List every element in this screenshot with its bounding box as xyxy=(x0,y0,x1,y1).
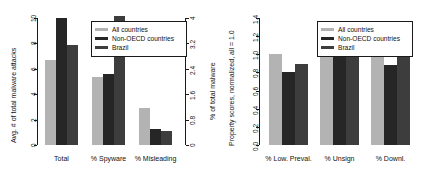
legend-item: Non-OECD countries xyxy=(95,34,182,43)
left-chart-panel: 0246810 00.81.62.43.24 Avg. # of total m… xyxy=(0,0,219,180)
axis-tick-label: 2.4 xyxy=(190,66,197,75)
legend-swatch-icon xyxy=(321,46,334,49)
legend-label: Brazil xyxy=(112,44,129,51)
axis-tick-label: 1.6 xyxy=(190,91,197,100)
axis-tick-label: 0.0 xyxy=(253,142,260,151)
axis-tick-label: 4 xyxy=(31,93,38,97)
axis-tick-label: 0.6 xyxy=(253,87,260,96)
axis-tick-label: 0 xyxy=(190,143,197,147)
bar xyxy=(56,18,67,145)
legend-swatch-icon xyxy=(95,28,108,31)
bar xyxy=(333,55,346,145)
legend-label: Brazil xyxy=(338,44,355,51)
bar xyxy=(282,72,295,145)
left-panel-secondary-y-axis-title: % of total malware xyxy=(209,62,216,120)
axis-tick-label: 0 xyxy=(31,143,38,147)
legend-swatch-icon xyxy=(95,37,108,40)
right-chart-panel: 0.00.20.40.60.81.01.21.4 Property scores… xyxy=(219,0,439,180)
axis-tick-label: 1.4 xyxy=(253,15,260,24)
legend-label: All countries xyxy=(338,26,374,33)
bar xyxy=(371,54,384,145)
bar xyxy=(269,54,282,145)
axis-tick-label: 10 xyxy=(31,15,38,22)
legend-item: Brazil xyxy=(321,43,408,52)
bar xyxy=(295,64,308,145)
left-y-axis-line xyxy=(37,18,38,145)
bar xyxy=(346,56,359,145)
axis-tick-label: 4 xyxy=(190,16,197,20)
axis-tick-label: 0.8 xyxy=(253,69,260,78)
bar xyxy=(320,54,333,145)
legend-item: All countries xyxy=(321,25,408,34)
left-y-axis-title: Avg. # of total malware attacks xyxy=(10,48,17,143)
axis-tick-label: 1.0 xyxy=(253,51,260,60)
bar xyxy=(45,60,56,145)
legend-item: Brazil xyxy=(95,43,182,52)
legend-swatch-icon xyxy=(321,37,334,40)
axis-tick-label: 0.8 xyxy=(190,116,197,125)
axis-tick-label: 0.4 xyxy=(253,106,260,115)
axis-tick-label: 2 xyxy=(31,118,38,122)
x-axis-label: % Downl. xyxy=(359,155,423,162)
legend-item: Non-OECD countries xyxy=(321,34,408,43)
bar xyxy=(67,45,78,145)
two-panel-bar-chart-figure: 0246810 00.81.62.43.24 Avg. # of total m… xyxy=(0,0,439,180)
axis-tick-label: 8 xyxy=(31,42,38,46)
axis-tick-label: 1.2 xyxy=(253,33,260,42)
legend-label: Non-OECD countries xyxy=(112,35,174,42)
legend-item: All countries xyxy=(95,25,182,34)
bar xyxy=(103,74,114,145)
bar xyxy=(161,131,172,145)
bar xyxy=(397,52,410,145)
legend-label: Non-OECD countries xyxy=(338,35,400,42)
axis-tick-label: 3.2 xyxy=(190,40,197,49)
bar xyxy=(384,65,397,145)
left-chart-legend: All countriesNon-OECD countriesBrazil xyxy=(91,21,187,57)
bar xyxy=(150,129,161,145)
right-chart-legend: All countriesNon-OECD countriesBrazil xyxy=(317,21,413,57)
axis-tick-label: 6 xyxy=(31,67,38,71)
axis-tick-label: 0.2 xyxy=(253,124,260,133)
bar xyxy=(92,77,103,145)
x-axis-label: % Misleading xyxy=(124,155,188,162)
legend-label: All countries xyxy=(112,26,148,33)
bar xyxy=(139,108,150,145)
right-y-axis-title: Property scores, normalized, all = 1.0 xyxy=(228,30,235,146)
legend-swatch-icon xyxy=(321,28,334,31)
legend-swatch-icon xyxy=(95,46,108,49)
